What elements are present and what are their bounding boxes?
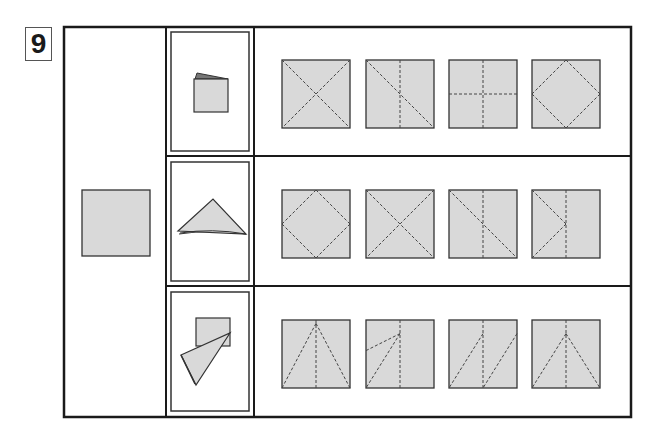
option-square[interactable] [366, 190, 434, 258]
folded-shape-square [194, 73, 228, 112]
option-paper [282, 190, 350, 258]
option-square[interactable] [449, 190, 517, 258]
folded-shape-triangle [178, 199, 246, 234]
option-square[interactable] [449, 60, 517, 128]
option-square[interactable] [532, 320, 600, 388]
option-square[interactable] [282, 320, 350, 388]
option-square[interactable] [532, 190, 600, 258]
option-paper [532, 60, 600, 128]
option-square[interactable] [282, 60, 350, 128]
option-square[interactable] [366, 60, 434, 128]
option-square[interactable] [366, 320, 434, 388]
option-square[interactable] [449, 320, 517, 388]
option-square[interactable] [282, 190, 350, 258]
option-square[interactable] [532, 60, 600, 128]
start-square [82, 190, 150, 256]
puzzle-grid [0, 0, 653, 439]
folded-shape-twisted [181, 318, 230, 385]
